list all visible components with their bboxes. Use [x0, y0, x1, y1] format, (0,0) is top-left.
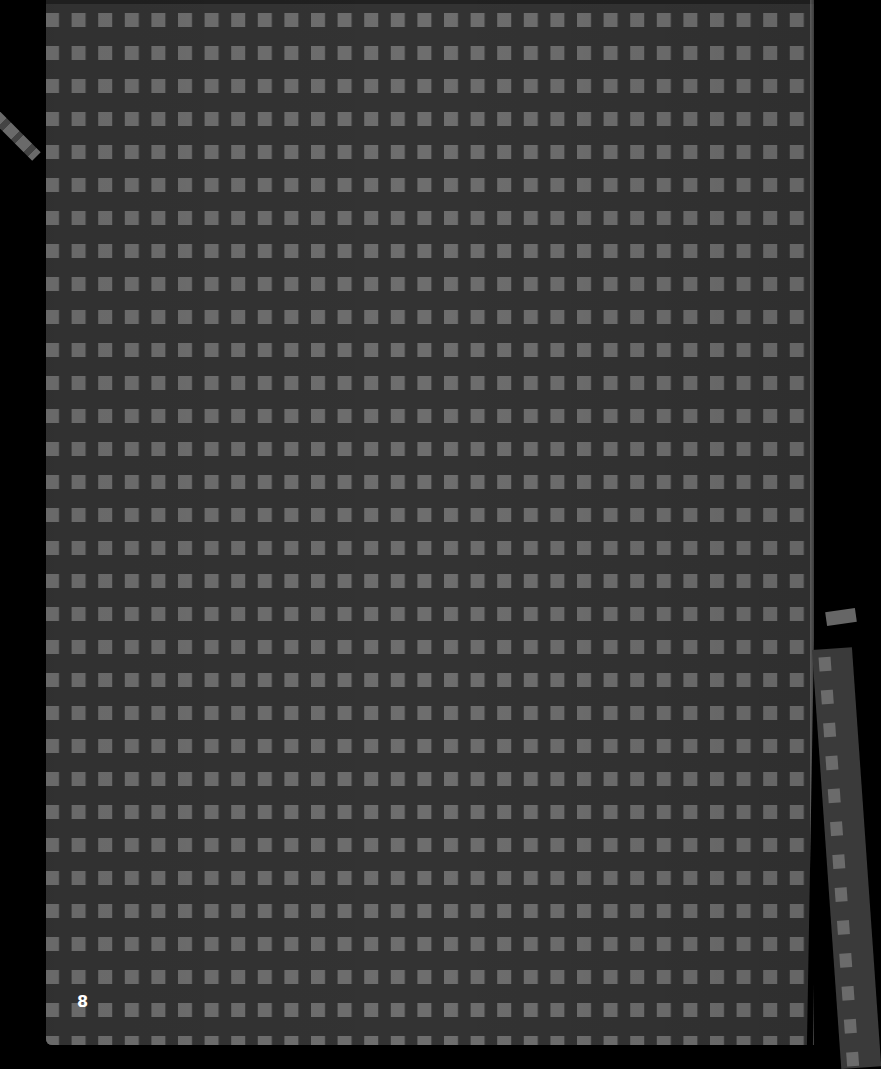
right-paper-flap [812, 647, 881, 1069]
right-paper-tab [825, 608, 857, 626]
page-number: 8 [77, 993, 88, 1011]
square-grid-pattern [46, 0, 814, 1045]
left-paper-tab [0, 110, 41, 161]
page-sheet: 8 [46, 0, 814, 1045]
